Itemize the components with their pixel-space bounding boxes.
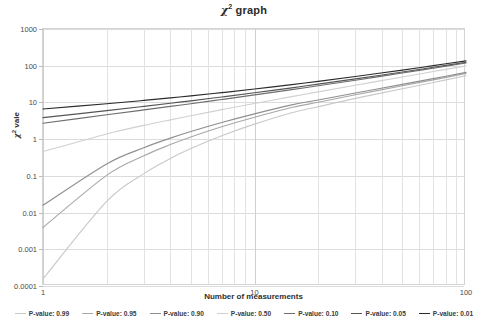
plot-area: 0.00010.0010.010.11101001000 110100: [42, 28, 465, 285]
chi-square-chart: χ2 graph 0.00010.0010.010.11101001000 11…: [0, 0, 488, 331]
y-axis-tick-label: 0.01: [0, 208, 37, 217]
legend-item-label: P-value: 0.05: [365, 310, 405, 317]
legend-item[interactable]: P-value: 0.05: [351, 310, 405, 317]
x-axis-title: Number of measurements: [42, 292, 465, 301]
legend-line-icon: [284, 313, 295, 314]
legend-item[interactable]: P-value: 0.10: [284, 310, 338, 317]
series-line: [43, 66, 466, 152]
y-axis-tick-label: 0.1: [0, 171, 37, 180]
legend-line-icon: [217, 313, 228, 314]
legend-item-label: P-value: 0.01: [433, 310, 473, 317]
y-axis-tick-mark: [39, 286, 43, 287]
legend-item-label: P-value: 0.95: [96, 310, 136, 317]
page-title: χ2 graph: [0, 3, 488, 17]
y-axis-chi-exponent: 2: [11, 130, 17, 133]
series-lines: [43, 29, 466, 286]
gridline-horizontal: [43, 286, 464, 287]
y-axis-rest: vale: [12, 112, 21, 130]
y-axis-chi-symbol: χ: [11, 133, 21, 138]
series-line: [43, 73, 466, 227]
legend-item-label: P-value: 0.50: [231, 310, 271, 317]
y-axis-title: χ2 vale: [11, 90, 22, 160]
y-axis-tick-label: 1000: [0, 25, 37, 34]
legend-line-icon: [82, 313, 93, 314]
legend-line-icon: [15, 313, 26, 314]
legend-item[interactable]: P-value: 0.50: [217, 310, 271, 317]
legend-item[interactable]: P-value: 0.95: [82, 310, 136, 317]
legend-line-icon: [419, 313, 430, 314]
legend-line-icon: [150, 313, 161, 314]
y-axis-tick-label: 100: [0, 61, 37, 70]
legend-item[interactable]: P-value: 0.01: [419, 310, 473, 317]
legend-item[interactable]: P-value: 0.90: [150, 310, 204, 317]
legend-item-label: P-value: 0.90: [164, 310, 204, 317]
legend-item[interactable]: P-value: 0.99: [15, 310, 69, 317]
legend-item-label: P-value: 0.10: [298, 310, 338, 317]
legend-line-icon: [351, 313, 362, 314]
title-rest: graph: [232, 4, 267, 16]
legend-item-label: P-value: 0.99: [29, 310, 69, 317]
series-line: [43, 76, 466, 279]
legend: P-value: 0.99P-value: 0.95P-value: 0.90P…: [0, 310, 488, 317]
y-axis-tick-label: 0.001: [0, 245, 37, 254]
series-line: [43, 61, 466, 109]
y-axis-tick-label: 0.0001: [0, 282, 37, 291]
